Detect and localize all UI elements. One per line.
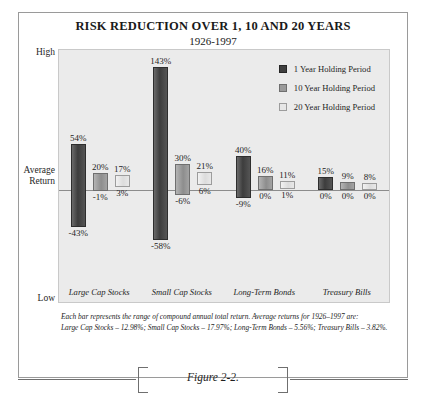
footnote-line-2: Large Cap Stocks – 12.98%; Small Cap Sto… [61, 322, 391, 333]
caption-band: Figure 2-2. [18, 366, 408, 392]
category-label: Treasury Bills [306, 287, 389, 297]
bar-low-value-label: -6% [166, 196, 199, 206]
bar-high-value-label: 40% [227, 145, 260, 155]
legend-item: 10 Year Holding Period [279, 83, 375, 93]
chart-title: RISK REDUCTION OVER 1, 10 AND 20 YEARS [19, 19, 407, 34]
caption-box: Figure 2-2. [138, 367, 288, 391]
legend-item: 1 Year Holding Period [279, 64, 375, 74]
bar-high-value-label: 21% [188, 161, 221, 171]
legend-swatch-icon [279, 103, 287, 111]
figure-footnote: Each bar represents the range of compoun… [61, 311, 391, 333]
bar-large-cap-stocks-series-0 [71, 144, 86, 227]
figure-caption: Figure 2-2. [138, 371, 288, 383]
legend-item: 20 Year Holding Period [279, 102, 375, 112]
caption-rule-right [290, 379, 408, 380]
legend-swatch-icon [279, 84, 287, 92]
axis-label-average-line2: Return [19, 176, 55, 187]
bar-low-value-label: 1% [271, 190, 304, 200]
bar-large-cap-stocks-series-2 [115, 175, 130, 187]
figure-frame: RISK REDUCTION OVER 1, 10 AND 20 YEARS 1… [18, 12, 408, 378]
axis-label-low: Low [21, 293, 55, 304]
chart-subtitle: 1926-1997 [19, 35, 407, 47]
legend-swatch-icon [279, 65, 287, 73]
bar-low-value-label: -43% [62, 228, 95, 238]
bar-high-value-label: 11% [271, 170, 304, 180]
category-label: Long-Term Bonds [223, 287, 306, 297]
bar-low-value-label: 6% [188, 186, 221, 196]
axis-label-high: High [21, 47, 55, 58]
bar-high-value-label: 17% [106, 164, 139, 174]
legend-label: 10 Year Holding Period [294, 83, 375, 93]
bar-long-term-bonds-series-2 [280, 181, 295, 190]
category-label: Large Cap Stocks [58, 287, 141, 297]
legend-label: 20 Year Holding Period [294, 102, 375, 112]
caption-rule-left [18, 379, 136, 380]
bar-high-value-label: 54% [62, 133, 95, 143]
bar-low-value-label: 3% [106, 188, 139, 198]
axis-label-average-return: Average Return [19, 165, 55, 187]
plot-area: 54%-43%20%-1%17%3%143%-58%30%-6%21%6%40%… [58, 49, 390, 303]
legend-label: 1 Year Holding Period [294, 64, 371, 74]
bar-low-value-label: -58% [144, 241, 177, 251]
axis-label-average-line1: Average [19, 165, 55, 176]
bar-small-cap-stocks-series-2 [197, 172, 212, 185]
bar-high-value-label: 8% [353, 172, 386, 182]
bar-treasury-bills-series-1 [340, 182, 355, 190]
footnote-line-1: Each bar represents the range of compoun… [61, 311, 391, 322]
bar-low-value-label: 0% [353, 191, 386, 201]
bar-treasury-bills-series-2 [362, 183, 377, 190]
bar-high-value-label: 143% [144, 56, 177, 66]
category-label: Small Cap Stocks [141, 287, 224, 297]
chart-legend: 1 Year Holding Period10 Year Holding Per… [279, 64, 375, 121]
